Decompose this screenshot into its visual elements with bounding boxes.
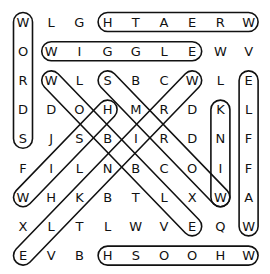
grid-cell[interactable]: K bbox=[67, 185, 91, 209]
grid-cell[interactable]: Q bbox=[208, 214, 232, 238]
grid-cell[interactable]: L bbox=[39, 214, 63, 238]
grid-cell[interactable]: W bbox=[11, 10, 35, 34]
grid-cell[interactable]: L bbox=[39, 10, 63, 34]
grid-cell[interactable]: B bbox=[96, 185, 120, 209]
word-search-board: WLGHTAERWOWIGGLEWVRWLSBCWLEDDOHMRDKLSJSB… bbox=[0, 0, 270, 274]
grid-cell[interactable]: O bbox=[180, 156, 204, 180]
grid-cell[interactable]: L bbox=[152, 185, 176, 209]
grid-cell[interactable]: H bbox=[208, 244, 232, 268]
grid-cell[interactable]: A bbox=[152, 10, 176, 34]
grid-cell[interactable]: V bbox=[39, 244, 63, 268]
grid-cell[interactable]: E bbox=[180, 214, 204, 238]
grid-cell[interactable]: D bbox=[39, 98, 63, 122]
grid-cell[interactable]: T bbox=[67, 214, 91, 238]
grid-cell[interactable]: O bbox=[11, 39, 35, 63]
grid-cell[interactable]: F bbox=[237, 156, 261, 180]
grid-cell[interactable]: C bbox=[152, 68, 176, 92]
grid-cell[interactable]: D bbox=[180, 98, 204, 122]
grid-cell[interactable]: O bbox=[180, 244, 204, 268]
grid-cell[interactable]: E bbox=[180, 39, 204, 63]
grid-cell[interactable]: C bbox=[152, 156, 176, 180]
grid-cell[interactable]: R bbox=[11, 68, 35, 92]
found-word-outline-whoosh bbox=[98, 246, 258, 265]
grid-cell[interactable]: X bbox=[11, 214, 35, 238]
grid-cell[interactable]: T bbox=[124, 10, 148, 34]
grid-cell[interactable]: W bbox=[124, 214, 148, 238]
grid-cell[interactable]: L bbox=[67, 156, 91, 180]
grid-cell[interactable]: R bbox=[152, 127, 176, 151]
grid-cell[interactable]: B bbox=[96, 127, 120, 151]
grid-cell[interactable]: J bbox=[39, 127, 63, 151]
grid-cell[interactable]: W bbox=[208, 39, 232, 63]
grid-cell[interactable]: L bbox=[67, 68, 91, 92]
grid-cell[interactable]: H bbox=[96, 98, 120, 122]
grid-cell[interactable]: L bbox=[152, 39, 176, 63]
grid-cell[interactable]: E bbox=[180, 10, 204, 34]
grid-cell[interactable]: O bbox=[152, 244, 176, 268]
grid-cell[interactable]: S bbox=[11, 127, 35, 151]
grid-cell[interactable]: E bbox=[11, 244, 35, 268]
grid-cell[interactable]: F bbox=[11, 156, 35, 180]
grid-cell[interactable]: I bbox=[124, 127, 148, 151]
grid-cell[interactable]: B bbox=[124, 68, 148, 92]
grid-cell[interactable]: T bbox=[124, 185, 148, 209]
grid-cell[interactable]: W bbox=[237, 10, 261, 34]
grid-cell[interactable]: F bbox=[237, 127, 261, 151]
grid-cell[interactable]: L bbox=[208, 68, 232, 92]
grid-cell[interactable]: R bbox=[152, 98, 176, 122]
grid-cell[interactable]: L bbox=[96, 214, 120, 238]
grid-cell[interactable]: G bbox=[67, 10, 91, 34]
grid-cell[interactable]: I bbox=[67, 39, 91, 63]
grid-cell[interactable]: I bbox=[39, 156, 63, 180]
grid-cell[interactable]: R bbox=[208, 10, 232, 34]
grid-cell[interactable]: B bbox=[67, 244, 91, 268]
grid-cell[interactable]: I bbox=[208, 156, 232, 180]
grid-cell[interactable]: G bbox=[96, 39, 120, 63]
grid-cell[interactable]: W bbox=[11, 185, 35, 209]
grid-cell[interactable]: S bbox=[96, 68, 120, 92]
grid-cell[interactable]: W bbox=[39, 39, 63, 63]
grid-cell[interactable]: S bbox=[124, 244, 148, 268]
grid-cell[interactable]: W bbox=[237, 244, 261, 268]
grid-cell[interactable]: X bbox=[180, 185, 204, 209]
grid-cell[interactable]: V bbox=[152, 214, 176, 238]
grid-cell[interactable]: M bbox=[124, 98, 148, 122]
grid-cell[interactable]: W bbox=[208, 185, 232, 209]
grid-cell[interactable]: K bbox=[208, 98, 232, 122]
grid-cell[interactable]: N bbox=[208, 127, 232, 151]
grid-cell[interactable]: A bbox=[237, 185, 261, 209]
grid-cell[interactable]: N bbox=[96, 156, 120, 180]
found-word-outline-waffle bbox=[239, 71, 258, 236]
grid-cell[interactable]: V bbox=[237, 39, 261, 63]
grid-cell[interactable]: W bbox=[39, 68, 63, 92]
grid-cell[interactable]: L bbox=[237, 98, 261, 122]
grid-cell[interactable]: G bbox=[124, 39, 148, 63]
grid-cell[interactable]: O bbox=[67, 98, 91, 122]
grid-cell[interactable]: W bbox=[237, 214, 261, 238]
grid-cell[interactable]: D bbox=[180, 127, 204, 151]
grid-cell[interactable]: H bbox=[39, 185, 63, 209]
grid-cell[interactable]: H bbox=[96, 244, 120, 268]
grid-cell[interactable]: H bbox=[96, 10, 120, 34]
grid-cell[interactable]: B bbox=[124, 156, 148, 180]
found-word-outline-wiggle bbox=[42, 42, 202, 61]
grid-cell[interactable]: D bbox=[11, 98, 35, 122]
grid-cell[interactable]: S bbox=[67, 127, 91, 151]
grid-cell[interactable]: E bbox=[237, 68, 261, 92]
grid-cell[interactable]: W bbox=[180, 68, 204, 92]
found-word-outline-wreath bbox=[98, 13, 258, 32]
